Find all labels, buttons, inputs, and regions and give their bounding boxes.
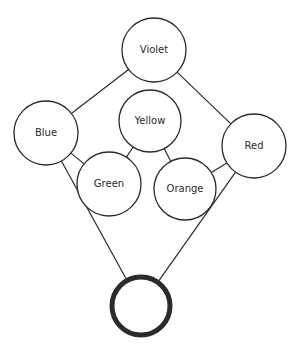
node-label-violet: Violet bbox=[140, 44, 168, 55]
edge-violet-red bbox=[177, 72, 231, 124]
node-label-red: Red bbox=[245, 140, 264, 151]
color-graph-diagram: VioletYellowBlueRedGreenOrange bbox=[0, 0, 305, 356]
edge-blue-green bbox=[71, 153, 84, 164]
node-red: Red bbox=[222, 114, 286, 178]
node-bottom bbox=[112, 277, 170, 335]
node-label-orange: Orange bbox=[167, 183, 204, 194]
node-label-yellow: Yellow bbox=[134, 115, 166, 126]
node-green: Green bbox=[77, 152, 141, 216]
edge-yellow-green bbox=[126, 147, 133, 157]
edge-yellow-orange bbox=[164, 149, 171, 162]
node-label-blue: Blue bbox=[35, 127, 57, 138]
node-yellow: Yellow bbox=[119, 90, 181, 152]
node-violet: Violet bbox=[122, 18, 186, 82]
edge-violet-blue bbox=[71, 69, 128, 113]
node-orange: Orange bbox=[154, 158, 216, 220]
nodes-layer: VioletYellowBlueRedGreenOrange bbox=[14, 18, 286, 335]
diagram-canvas: VioletYellowBlueRedGreenOrange bbox=[0, 0, 305, 356]
node-label-green: Green bbox=[94, 178, 124, 189]
node-circle-bottom bbox=[112, 277, 170, 335]
edge-orange-red bbox=[211, 163, 227, 173]
node-blue: Blue bbox=[14, 101, 78, 165]
